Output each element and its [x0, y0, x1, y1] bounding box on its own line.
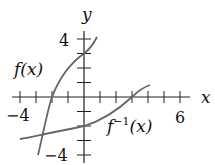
y-axis-label: y — [81, 4, 92, 24]
f-inverse-curve-label: f−1(x) — [105, 115, 152, 136]
x-tick-label-6: 6 — [175, 108, 185, 127]
y-tick-label-4: 4 — [59, 31, 69, 50]
finv-arg: (x) — [130, 116, 153, 136]
function-inverse-plot: y x 4 −4 −4 6 f(x) f−1(x) — [0, 0, 215, 165]
y-tick-label-neg4: −4 — [44, 146, 68, 165]
f-curve-label: f(x) — [12, 59, 43, 79]
x-axis-label: x — [201, 87, 211, 107]
finv-sup: −1 — [113, 115, 129, 128]
x-tick-label-neg4: −4 — [6, 106, 30, 125]
